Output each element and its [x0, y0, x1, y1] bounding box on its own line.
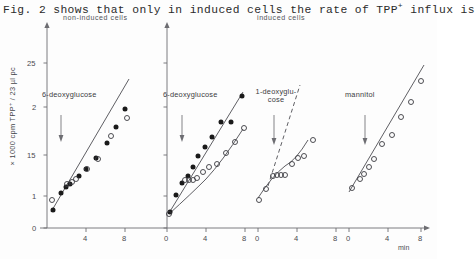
x-tick-p2-4: 4 — [203, 234, 207, 243]
panel-1-plot — [50, 79, 130, 213]
x-axis — [40, 225, 430, 232]
y-tick-25: 25 — [27, 59, 35, 68]
y-axis-label-superscript: + — [7, 103, 13, 107]
panel-4-plot — [349, 65, 424, 192]
x-axis-unit-label: min — [398, 244, 409, 251]
group-header-induced: induced cells — [257, 14, 305, 22]
y-tick-1: 1 — [32, 192, 36, 201]
figure-chart: × 1000 cpm TPP+ / 23 µl pc 0 1 15 2 25 4… — [0, 16, 437, 259]
group-header-non-induced: non-induced cells — [63, 14, 128, 22]
annotation-1-deoxyglucose-panel-3: 1-deoxyglu-cose — [253, 88, 299, 104]
x-tick-p2-8: 8 — [242, 234, 246, 243]
x-tick-p3-8: 8 — [333, 234, 337, 243]
annotation-6-deoxyglucose-panel-2: 6-deoxyglucose — [163, 90, 218, 99]
y-axis-label: × 1000 cpm TPP+ / 23 µl pc — [7, 41, 17, 191]
panel-3-open-series — [257, 138, 316, 203]
y-axis-panel-2 — [164, 22, 170, 228]
x-tick-p4-4: 4 — [385, 234, 389, 243]
x-tick-p3-4: 4 — [294, 234, 298, 243]
y-tick-2: 2 — [32, 103, 36, 112]
annotation-mannitol-panel-4: mannitol — [345, 90, 375, 99]
y-axis-panel-1 — [44, 22, 50, 228]
chart-canvas — [0, 16, 437, 259]
y-tick-0: 0 — [32, 224, 36, 233]
x-tick-p3-0: 0 — [255, 234, 259, 243]
x-tick-p2-0: 0 — [164, 234, 168, 243]
x-tick-p4-8: 8 — [418, 234, 422, 243]
y-axis-label-prefix: × 1000 cpm TPP — [8, 106, 17, 165]
y-tick-15: 15 — [27, 151, 35, 160]
x-tick-p4-0: 0 — [346, 234, 350, 243]
panel-2-open-series — [167, 126, 247, 217]
annotation-1-deoxyglucose-line2: cose — [268, 95, 284, 104]
x-tick-p1-8: 8 — [122, 234, 126, 243]
annotation-6-deoxyglucose-panel-1: 6-deoxyglucose — [42, 90, 97, 99]
panel-1-filled-series — [51, 107, 128, 213]
panel-2-plot — [167, 92, 247, 217]
y-axis-label-suffix: / 23 µl pc — [8, 67, 17, 103]
x-tick-p1-4: 4 — [83, 234, 87, 243]
caption-suffix: influx is — [403, 4, 475, 16]
